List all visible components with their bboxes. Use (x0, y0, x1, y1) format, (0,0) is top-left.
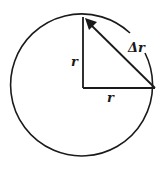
delta-r-arrow-line (90, 24, 155, 88)
vertical-radius-label: r (71, 54, 79, 69)
circle-vector-diagram: r r Δr (0, 0, 165, 170)
circle-arc (11, 14, 153, 156)
delta-r-label: Δr (127, 40, 146, 55)
horizontal-radius-label: r (107, 90, 115, 105)
